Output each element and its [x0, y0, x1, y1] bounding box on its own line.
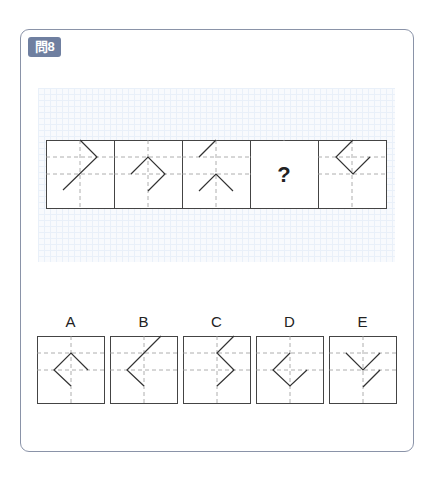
option-label-b: B	[129, 313, 159, 330]
answer-choice-a[interactable]	[37, 336, 104, 403]
unknown-panel-question-mark: ?	[269, 162, 299, 188]
option-label-d: D	[275, 313, 305, 330]
answer-choice-e[interactable]	[329, 336, 396, 403]
option-label-c: C	[202, 313, 232, 330]
figure-canvas	[0, 0, 431, 480]
answer-choice-c[interactable]	[183, 336, 250, 403]
answer-choice-b[interactable]	[110, 336, 177, 403]
answer-choice-d[interactable]	[256, 336, 323, 403]
sequence-panel-2-box	[115, 141, 183, 209]
option-label-e: E	[348, 313, 378, 330]
sequence-panel-5-box	[319, 141, 387, 209]
option-label-a: A	[56, 313, 86, 330]
sequence-panel-1-box	[47, 141, 115, 209]
